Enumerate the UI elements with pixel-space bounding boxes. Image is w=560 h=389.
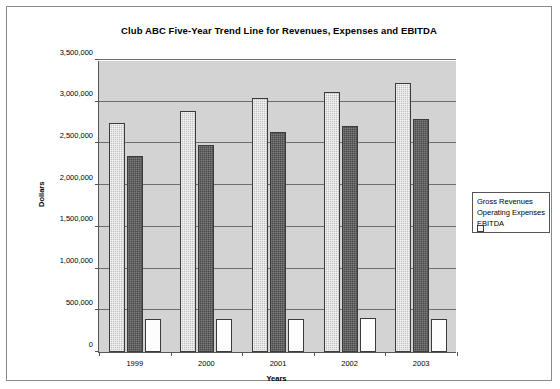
bar (198, 145, 214, 352)
y-tick-mark (95, 268, 99, 269)
bar-group (180, 61, 232, 352)
y-tick-mark (95, 226, 99, 227)
chart-legend: Gross RevenuesOperating ExpensesEBITDA (472, 192, 550, 233)
y-tick-label: 2,000,000 (60, 172, 93, 181)
y-tick-mark (95, 184, 99, 185)
legend-item: Operating Expenses (477, 207, 545, 218)
legend-item: EBITDA (477, 218, 545, 229)
bar (127, 156, 143, 352)
bar (431, 319, 447, 352)
x-tick-mark (314, 352, 315, 356)
x-tick-label: 2000 (198, 359, 215, 368)
bar-group (109, 61, 161, 352)
y-tick-mark (95, 142, 99, 143)
y-tick-label: 1,500,000 (60, 214, 93, 223)
y-axis-title: Dollars (37, 182, 46, 207)
bar (145, 319, 161, 352)
bar (109, 123, 125, 352)
x-tick-mark (385, 352, 386, 356)
x-tick-label: 2001 (270, 359, 287, 368)
bar (395, 83, 411, 352)
bar (216, 319, 232, 352)
legend-label: Gross Revenues (477, 197, 533, 206)
y-tick-mark (95, 59, 99, 60)
legend-label: Operating Expenses (477, 208, 545, 217)
plot-area: 0500,0001,000,0001,500,0002,000,0002,500… (98, 61, 456, 353)
y-tick-label: 0 (89, 339, 93, 348)
legend-swatch-icon (477, 225, 484, 232)
chart-title: Club ABC Five-Year Trend Line for Revenu… (7, 25, 551, 36)
bar (342, 126, 358, 352)
x-tick-mark (457, 352, 458, 356)
gridline (99, 59, 456, 60)
y-tick-label: 2,500,000 (60, 130, 93, 139)
bar (180, 111, 196, 352)
y-tick-label: 500,000 (66, 297, 93, 306)
bar (252, 98, 268, 352)
x-tick-mark (99, 352, 100, 356)
x-tick-label: 2003 (413, 359, 430, 368)
bar-group (324, 61, 376, 352)
bar (324, 92, 340, 352)
x-tick-label: 2002 (341, 359, 358, 368)
legend-item: Gross Revenues (477, 196, 545, 207)
chart-frame: Club ABC Five-Year Trend Line for Revenu… (6, 6, 552, 381)
bar-group (252, 61, 304, 352)
bar (288, 319, 304, 352)
x-tick-label: 1999 (126, 359, 143, 368)
bar (270, 132, 286, 352)
y-tick-mark (95, 309, 99, 310)
x-tick-mark (242, 352, 243, 356)
y-tick-label: 3,500,000 (60, 47, 93, 56)
bar-group (395, 61, 447, 352)
x-axis-title: Years (98, 374, 455, 383)
x-tick-mark (171, 352, 172, 356)
y-tick-label: 1,000,000 (60, 256, 93, 265)
bar (360, 318, 376, 352)
y-tick-mark (95, 101, 99, 102)
bar (413, 119, 429, 352)
y-tick-label: 3,000,000 (60, 89, 93, 98)
